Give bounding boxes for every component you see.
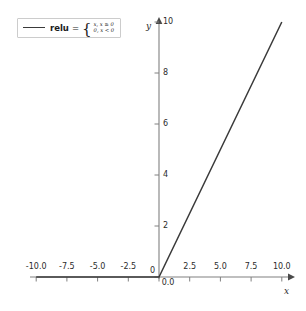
y-axis-label: y [146, 22, 151, 31]
y-tick-label: 0 [150, 267, 155, 275]
x-tick-label: -7.5 [59, 263, 75, 271]
x-tick-label: -10.0 [26, 263, 47, 271]
legend[interactable]: relu = { x, x ≥ 0 0, x < 0 [17, 18, 121, 38]
x-tick-label: 7.5 [245, 263, 258, 271]
x-axis-arrowhead [288, 273, 295, 280]
x-tick-label: 0.0 [162, 279, 175, 287]
x-tick-label: 10.0 [273, 263, 291, 271]
legend-piecewise-cases: x, x ≥ 0 0, x < 0 [94, 22, 114, 34]
y-tick-label: 6 [163, 120, 168, 128]
x-tick-label: 5.0 [214, 263, 227, 271]
legend-entry-relu: relu = { x, x ≥ 0 0, x < 0 [50, 22, 114, 34]
y-tick-label: 4 [163, 171, 168, 179]
legend-equals-sign: = [71, 24, 80, 33]
relu-function-chart: -10.0 -7.5 -5.0 -2.5 0.0 2.5 5.0 7.5 10.… [0, 0, 306, 311]
x-axis-label: x [284, 287, 289, 296]
legend-brace: { [82, 23, 92, 34]
y-tick-label: 10 [163, 18, 173, 26]
y-tick-label: 8 [163, 69, 168, 77]
y-tick-label: 2 [163, 222, 168, 230]
x-tick-label: 2.5 [183, 263, 196, 271]
legend-series-name: relu [50, 24, 69, 33]
y-axis-arrowhead [156, 17, 163, 24]
y-tick-marks [155, 22, 160, 277]
x-tick-label: -2.5 [120, 263, 136, 271]
legend-line-swatch-relu [23, 27, 45, 28]
bottom-caption [0, 300, 306, 311]
legend-case-negative: 0, x < 0 [94, 28, 114, 34]
x-tick-label: -5.0 [90, 263, 106, 271]
